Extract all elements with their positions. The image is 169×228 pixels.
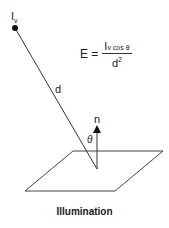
- illumination-diagram: [0, 0, 169, 228]
- formula-lhs: E =: [80, 47, 98, 61]
- source-label-subscript: v: [14, 17, 18, 24]
- formula-denominator: d2: [112, 54, 122, 69]
- illumination-formula: E = Iv cos θ d2: [80, 40, 132, 69]
- normal-label: n: [94, 114, 100, 125]
- denominator-exponent: 2: [118, 56, 122, 63]
- formula-numerator: Iv cos θ: [102, 40, 131, 54]
- surface-plane: [25, 151, 163, 191]
- light-source-dot: [12, 25, 18, 31]
- distance-label: d: [55, 84, 61, 95]
- diagram-caption: Illumination: [0, 206, 169, 217]
- formula-fraction: Iv cos θ d2: [102, 40, 131, 69]
- angle-label: θ: [87, 135, 92, 145]
- normal-arrowhead-icon: [93, 125, 101, 133]
- numerator-rest: v cos θ: [107, 44, 129, 51]
- source-label: Iv: [11, 11, 18, 22]
